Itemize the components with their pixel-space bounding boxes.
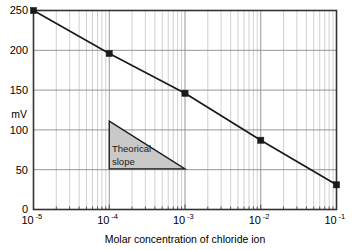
svg-text:-3: -3	[187, 212, 194, 221]
svg-text:10: 10	[21, 214, 33, 226]
theoretical-slope-label-line1: Theorical	[112, 143, 151, 154]
svg-text:10: 10	[173, 214, 185, 226]
y-axis-tick-label: 250	[10, 4, 28, 16]
svg-text:-5: -5	[36, 212, 43, 221]
data-point-marker[interactable]	[333, 182, 339, 188]
y-axis-tick-label: 50	[16, 164, 28, 176]
y-axis-tick-label: 150	[10, 84, 28, 96]
y-axis-tick-label: 200	[10, 44, 28, 56]
theoretical-slope-label-line2: slope	[112, 156, 135, 167]
data-point-marker[interactable]	[106, 50, 112, 56]
svg-text:10: 10	[97, 214, 109, 226]
y-axis-title: mV	[11, 108, 27, 120]
svg-text:-2: -2	[263, 212, 270, 221]
svg-text:10: 10	[324, 214, 336, 226]
chart-plot-svg: Theorical slope 050100150200250 10-510-4…	[0, 0, 355, 250]
chart-figure: Theorical slope 050100150200250 10-510-4…	[0, 0, 355, 250]
x-axis-title: Molar concentration of chloride ion	[105, 233, 266, 245]
data-point-marker[interactable]	[182, 90, 188, 96]
svg-text:10: 10	[249, 214, 261, 226]
data-point-marker[interactable]	[30, 7, 36, 13]
svg-text:-4: -4	[111, 212, 118, 221]
data-point-marker[interactable]	[258, 137, 264, 143]
y-axis-tick-label: 100	[10, 124, 28, 136]
svg-text:-1: -1	[339, 212, 346, 221]
